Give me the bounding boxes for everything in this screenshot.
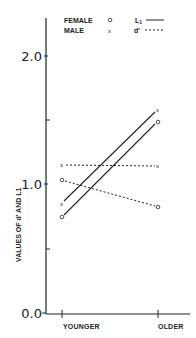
y-axis-label: VALUES OF d' AND L1 <box>15 188 22 262</box>
point-male-l1-older: x <box>156 107 159 113</box>
y-tick-label-0: 0.0 <box>21 306 42 321</box>
point-male-l1-younger: x <box>60 201 63 207</box>
legend-circle-marker <box>108 18 112 22</box>
point-male-dprime-younger: x <box>60 162 63 168</box>
y-tick-label-1: 1.0 <box>21 177 42 192</box>
legend-female-label: FEMALE <box>64 17 93 24</box>
series-female-l1 <box>60 120 160 219</box>
legend-male-label: MALE <box>64 27 84 34</box>
chart: 0.0 1.0 2.0 YOUNGER OLDER VALUES OF d' A… <box>0 0 196 338</box>
legend: FEMALE MALE x L1 d' <box>64 17 164 34</box>
series-male-l1: x x <box>60 107 159 207</box>
legend-l1-label: L1 <box>135 17 142 25</box>
point-male-dprime-older: x <box>156 163 159 169</box>
y-tick-label-2: 2.0 <box>21 49 42 64</box>
point-female-l1-younger <box>60 215 64 219</box>
point-female-dprime-younger <box>60 178 64 182</box>
series-male-dprime: x x <box>60 162 159 169</box>
x-category-older: OLDER <box>158 323 184 330</box>
legend-x-marker: x <box>108 28 111 34</box>
x-category-younger: YOUNGER <box>63 323 100 330</box>
point-female-dprime-older <box>156 205 160 209</box>
legend-dprime-label: d' <box>134 27 140 34</box>
point-female-l1-older <box>156 120 160 124</box>
